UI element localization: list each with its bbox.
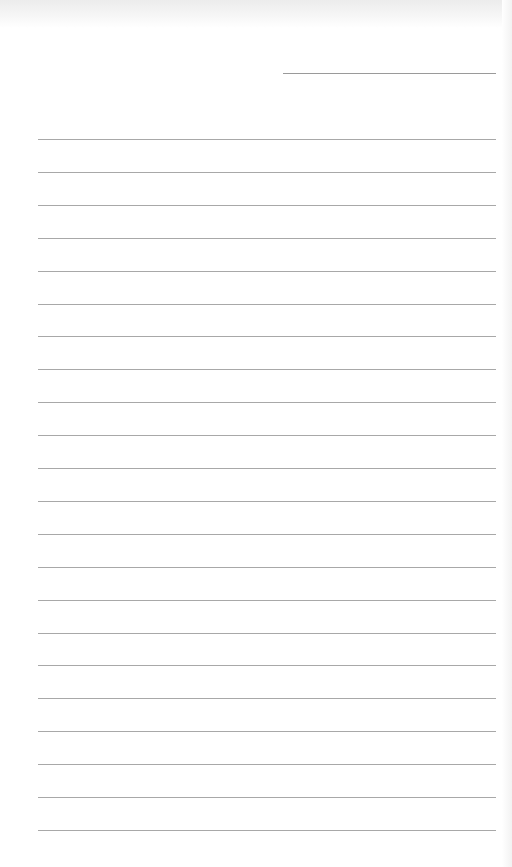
ruled-line (38, 172, 496, 173)
ruled-line (38, 271, 496, 272)
page-edge-shadow (502, 0, 512, 867)
ruled-line (38, 435, 496, 436)
ruled-line (38, 665, 496, 666)
ruled-line (38, 205, 496, 206)
ruled-line (38, 731, 496, 732)
date-line (283, 73, 496, 74)
ruled-line (38, 534, 496, 535)
ruled-line (38, 468, 496, 469)
ruled-line (38, 238, 496, 239)
ruled-line (38, 567, 496, 568)
ruled-line (38, 764, 496, 765)
ruled-line (38, 402, 496, 403)
ruled-line (38, 830, 496, 831)
scan-shadow-band (0, 0, 512, 28)
ruled-line (38, 336, 496, 337)
ruled-line (38, 797, 496, 798)
ruled-line (38, 698, 496, 699)
ruled-line (38, 139, 496, 140)
ruled-line (38, 633, 496, 634)
ruled-line (38, 600, 496, 601)
ruled-line (38, 369, 496, 370)
ruled-line (38, 304, 496, 305)
ruled-line (38, 501, 496, 502)
